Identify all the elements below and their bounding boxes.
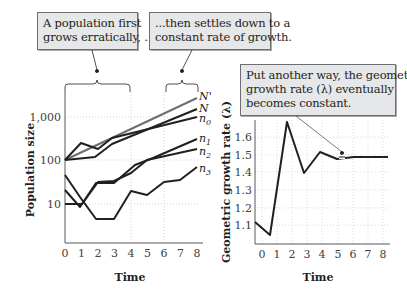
right-y-axis-title: Geometric growth rate (λ) [220,101,233,263]
left-x-axis-title: Time [114,271,145,284]
right-y-ticks: 1.6 1.5 1.4 1.3 1.2 1.1 [235,131,253,232]
label-n0: n0 [199,112,211,127]
left-y-tick: 10 [47,198,61,211]
right-chart: 1.6 1.5 1.4 1.3 1.2 1.1 0 1 2 3 4 5 6 7 … [220,101,390,284]
left-y-tick: 1,000 [30,111,62,124]
right-gridlines [255,120,388,244]
left-y-tick: 100 [40,154,61,167]
svg-text:1.2: 1.2 [235,202,253,215]
svg-text:0: 0 [259,248,266,261]
figure-canvas: 1,000 100 10 0 1 2 3 4 5 6 7 8 Time Popu… [0,0,407,296]
left-x-ticks: 0 1 2 3 4 5 6 7 8 [62,247,201,260]
svg-text:7: 7 [177,247,184,260]
right-x-ticks: 0 1 2 3 4 5 6 7 8 [259,248,387,261]
svg-text:3: 3 [304,248,311,261]
label-n2: n2 [199,145,211,160]
svg-text:1.1: 1.1 [235,219,253,232]
svg-text:3: 3 [111,247,118,260]
svg-text:0: 0 [62,247,69,260]
svg-text:1: 1 [274,248,281,261]
svg-text:8: 8 [380,248,387,261]
label-n3: n3 [199,162,211,177]
left-y-axis-title: Population size [24,123,37,217]
svg-text:5: 5 [144,247,151,260]
series-n3 [65,167,197,219]
svg-text:4: 4 [128,247,135,260]
left-chart: 1,000 100 10 0 1 2 3 4 5 6 7 8 Time Popu… [24,90,212,284]
svg-text:6: 6 [161,247,168,260]
svg-text:1: 1 [78,247,85,260]
right-x-axis-title: Time [302,271,333,284]
svg-text:6: 6 [350,248,357,261]
svg-text:1.6: 1.6 [235,131,253,144]
svg-text:7: 7 [365,248,372,261]
svg-text:1.4: 1.4 [235,166,253,179]
svg-text:2: 2 [95,247,102,260]
svg-text:5: 5 [335,248,342,261]
svg-text:1.3: 1.3 [235,184,253,197]
svg-text:4: 4 [319,248,326,261]
svg-text:8: 8 [194,247,201,260]
svg-text:1.5: 1.5 [235,149,253,162]
svg-text:2: 2 [289,248,296,261]
